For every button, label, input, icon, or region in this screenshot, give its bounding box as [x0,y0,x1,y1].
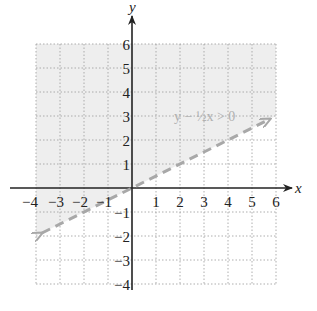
y-tick: 4 [123,85,131,101]
y-tick: 2 [123,133,131,149]
y-tick: −2 [114,229,130,245]
y-tick: −3 [114,253,130,269]
inequality-label: y − ½x > 0 [174,109,235,124]
y-tick: −1 [114,205,130,221]
x-tick: −2 [72,194,88,210]
x-tick: −3 [48,194,64,210]
x-tick-labels: −4 −3 −2 −1 1 2 3 4 5 6 [22,194,280,210]
x-tick: 4 [224,194,232,210]
x-tick: 2 [176,194,184,210]
x-tick: 1 [152,194,160,210]
y-tick: 6 [123,37,131,53]
y-tick: 3 [123,109,131,125]
y-tick: 5 [123,61,131,77]
x-tick: −4 [22,194,38,210]
coordinate-plane: x y −4 −3 −2 −1 1 2 3 4 5 6 6 5 4 3 2 1 … [0,0,317,311]
y-tick: −4 [114,277,130,293]
y-tick: 1 [123,157,131,173]
x-axis-label: x [294,180,302,196]
x-tick: 3 [200,194,208,210]
x-tick: 5 [248,194,256,210]
x-tick: −1 [96,194,112,210]
y-axis-label: y [127,0,136,15]
x-tick: 6 [272,194,280,210]
